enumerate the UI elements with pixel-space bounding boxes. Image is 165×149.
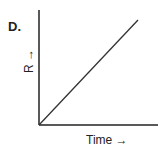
- chart-panel: D. R → Time →: [0, 0, 165, 149]
- y-axis-label: R →: [22, 49, 36, 73]
- x-axis-label: Time →: [86, 133, 128, 147]
- data-line: [39, 20, 138, 125]
- plot-area: [0, 0, 165, 149]
